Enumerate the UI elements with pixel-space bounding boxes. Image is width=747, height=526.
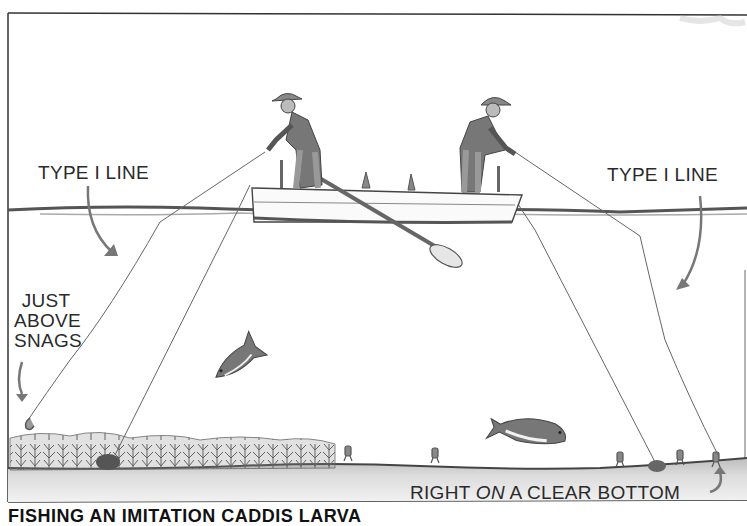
arrow-snags-icon <box>19 362 22 394</box>
hook-left <box>26 418 35 430</box>
label-bottom-emphasis: ON <box>476 482 505 503</box>
weed-bed <box>10 432 335 470</box>
frame <box>8 13 747 502</box>
trout-fish-2 <box>486 413 567 449</box>
angler-left <box>268 93 322 188</box>
rock <box>648 460 666 472</box>
figure-caption: FISHING AN IMITATION CADDIS LARVA <box>8 506 362 526</box>
label-right-on-clear-bottom: RIGHT ON A CLEAR BOTTOM <box>410 483 680 503</box>
label-snags-line-3: SNAGS <box>14 331 78 351</box>
label-type-i-line-left: TYPE I LINE <box>38 163 149 183</box>
label-type-i-line-right: TYPE I LINE <box>607 165 718 185</box>
label-snags-line-2: ABOVE <box>14 311 78 331</box>
label-bottom-part-1: RIGHT <box>410 482 476 503</box>
snag-rock <box>96 454 120 470</box>
arrow-left-line-icon <box>88 186 112 252</box>
trout-fish-1 <box>206 331 267 388</box>
label-snags-line-1: JUST <box>14 291 78 311</box>
label-bottom-part-2: A CLEAR BOTTOM <box>505 482 680 503</box>
label-just-above-snags: JUST ABOVE SNAGS <box>14 291 78 351</box>
angler-right <box>460 97 515 192</box>
